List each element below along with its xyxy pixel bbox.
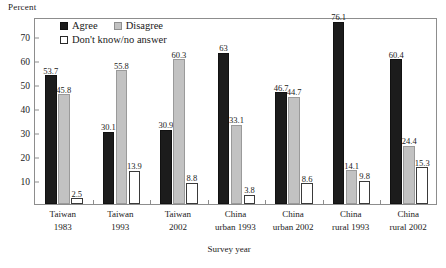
- x-axis-tick-label: Chinarural 2002: [379, 208, 437, 233]
- x-axis-tick-label-line: China: [379, 208, 437, 221]
- legend-swatch-agree-icon: [60, 22, 68, 30]
- bar-dk: 13.9: [129, 171, 141, 204]
- bar-value-label: 2.5: [71, 190, 82, 199]
- bar-agree: 30.9: [160, 130, 172, 204]
- bar-value-label: 9.8: [359, 172, 370, 181]
- bar-group: 60.424.415.3: [380, 19, 438, 204]
- x-axis-tick-label-line: rural 1993: [322, 221, 380, 234]
- bar-value-label: 63: [219, 44, 228, 53]
- x-axis-group-separator: [150, 200, 151, 204]
- bar-value-label: 30.1: [101, 123, 116, 132]
- x-axis-tick-label: Taiwan1983: [34, 208, 92, 233]
- y-axis-title: Percent: [8, 2, 36, 12]
- bar-value-label: 55.8: [114, 62, 129, 71]
- bar-group: 6333.13.8: [208, 19, 266, 204]
- x-axis-group-separator: [208, 200, 209, 204]
- legend-row-bottom: Don't know/no answer: [60, 33, 167, 46]
- x-axis-tick-label: Chinaurban 1993: [207, 208, 265, 233]
- bar-dk: 3.8: [244, 195, 256, 204]
- legend-label-dont-know: Don't know/no answer: [72, 33, 167, 46]
- y-axis-tick-label: 50: [21, 81, 31, 91]
- bar-value-label: 15.3: [415, 159, 430, 168]
- x-axis-group-separator: [323, 200, 324, 204]
- bar-agree: 46.7: [275, 92, 287, 204]
- bar-value-label: 8.8: [187, 174, 198, 183]
- bar-value-label: 13.9: [127, 162, 142, 171]
- bar-value-label: 14.1: [344, 162, 359, 171]
- legend-swatch-dont-know-icon: [60, 36, 68, 44]
- bar-group: 30.960.38.8: [150, 19, 208, 204]
- bar-value-label: 3.8: [244, 186, 255, 195]
- x-axis-tick-label-line: urban 1993: [207, 221, 265, 234]
- x-axis-tick-label: Taiwan2002: [149, 208, 207, 233]
- x-axis-tick-label-line: China: [322, 208, 380, 221]
- y-axis-tick-label: 10: [21, 177, 31, 187]
- bar-chart: Percent 10203040506070 53.745.82.530.155…: [0, 0, 446, 268]
- bar-dk: 2.5: [71, 198, 83, 204]
- x-axis-tick-label-line: Taiwan: [34, 208, 92, 221]
- x-axis-group-separator: [380, 200, 381, 204]
- x-axis-tick-label-line: urban 2002: [264, 221, 322, 234]
- bar-dk: 15.3: [416, 167, 428, 204]
- y-axis-tick-label: 20: [21, 153, 31, 163]
- bar-disagree: 60.3: [173, 59, 185, 204]
- bar-value-label: 33.1: [229, 116, 244, 125]
- bar-value-label: 76.1: [331, 13, 346, 22]
- bar-value-label: 53.7: [43, 67, 58, 76]
- bar-dk: 9.8: [359, 181, 371, 204]
- bar-disagree: 14.1: [346, 170, 358, 204]
- bar-value-label: 44.7: [287, 88, 302, 97]
- x-axis-tick-label: Chinaurban 2002: [264, 208, 322, 233]
- x-axis-tick-label: Taiwan1993: [92, 208, 150, 233]
- x-axis-tick-label-line: Taiwan: [92, 208, 150, 221]
- bar-disagree: 55.8: [116, 70, 128, 204]
- x-axis-tick-label-line: China: [264, 208, 322, 221]
- bar-agree: 63: [218, 53, 230, 204]
- bar-group: 46.744.78.6: [265, 19, 323, 204]
- y-axis-tick-label: 60: [21, 57, 31, 67]
- legend-swatch-disagree-icon: [114, 22, 122, 30]
- bar-disagree: 45.8: [58, 94, 70, 204]
- bar-agree: 60.4: [390, 59, 402, 204]
- bar-group: 76.114.19.8: [323, 19, 381, 204]
- x-axis-tick-label-line: rural 2002: [379, 221, 437, 234]
- bar-dk: 8.8: [186, 183, 198, 204]
- bar-group: 53.745.82.5: [35, 19, 93, 204]
- x-axis-tick-label-line: China: [207, 208, 265, 221]
- plot-area: 10203040506070 53.745.82.530.155.813.930…: [34, 18, 437, 205]
- legend-row-top: Agree Disagree: [60, 19, 167, 32]
- bar-disagree: 24.4: [403, 146, 415, 204]
- legend-label-disagree: Disagree: [126, 19, 163, 32]
- bar-group: 30.155.813.9: [93, 19, 151, 204]
- bar-dk: 8.6: [301, 183, 313, 204]
- x-axis-tick-label-line: Taiwan: [149, 208, 207, 221]
- bar-value-label: 60.3: [171, 51, 186, 60]
- bar-value-label: 24.4: [402, 137, 417, 146]
- bar-agree: 76.1: [333, 22, 345, 204]
- bar-value-label: 8.6: [302, 175, 313, 184]
- y-axis-tick-label: 30: [21, 129, 31, 139]
- bar-value-label: 30.9: [158, 121, 173, 130]
- bar-agree: 53.7: [45, 75, 57, 204]
- bar-disagree: 33.1: [231, 125, 243, 204]
- y-axis-tick-label: 40: [21, 105, 31, 115]
- x-axis-group-separator: [265, 200, 266, 204]
- y-axis-tick-label: 70: [21, 33, 31, 43]
- x-axis-title: Survey year: [208, 244, 251, 254]
- x-axis-group-separator: [93, 200, 94, 204]
- bar-disagree: 44.7: [288, 97, 300, 204]
- x-axis-tick-label-line: 1993: [92, 221, 150, 234]
- x-axis-tick-label-line: 1983: [34, 221, 92, 234]
- bar-agree: 30.1: [103, 132, 115, 204]
- bar-value-label: 60.4: [389, 51, 404, 60]
- x-axis-tick-label: Chinarural 1993: [322, 208, 380, 233]
- x-axis-tick-label-line: 2002: [149, 221, 207, 234]
- chart-legend: Agree Disagree Don't know/no answer: [60, 19, 167, 46]
- legend-label-agree: Agree: [72, 19, 98, 32]
- bar-value-label: 45.8: [56, 86, 71, 95]
